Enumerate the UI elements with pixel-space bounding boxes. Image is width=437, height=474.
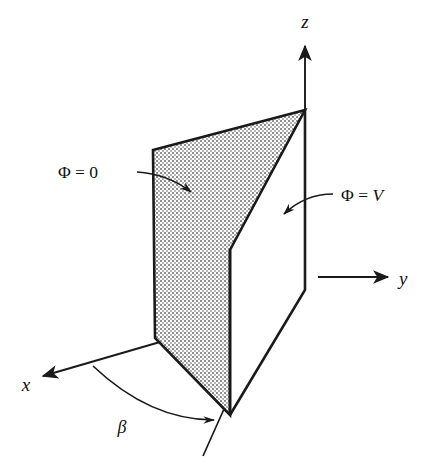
figure-root: z y x β Φ = 0 Φ = V [0,0,437,474]
beta-label: β [117,417,127,437]
phi-v-label: Φ = V [341,185,385,205]
phi-v-value: V [372,185,385,205]
z-axis-label: z [300,11,309,32]
wedge-geometry-diagram: z y x β Φ = 0 Φ = V [0,0,437,474]
v-plane-trace-tick [203,409,224,456]
phi-v-relation: = [358,185,368,205]
x-axis-line [43,342,160,376]
y-axis-label: y [397,268,408,289]
x-axis-label: x [21,374,31,395]
phi-zero-label: Φ = 0 [58,162,98,182]
phi-v-symbol: Φ [341,185,354,205]
